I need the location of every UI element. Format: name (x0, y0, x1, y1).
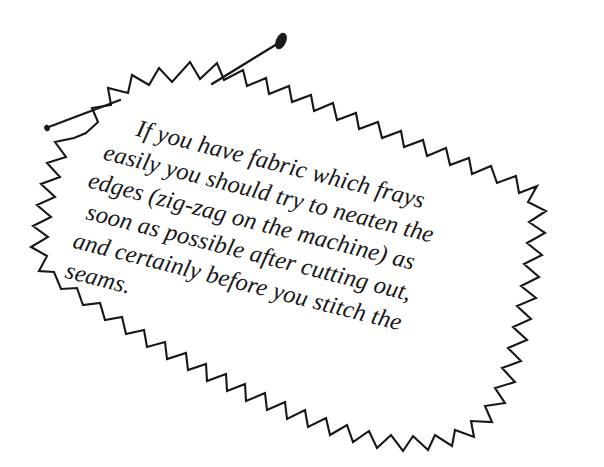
pin-left-head (44, 124, 51, 131)
pin-top-head (273, 32, 288, 51)
illustration-canvas: If you have fabric which frays easily yo… (0, 0, 604, 467)
